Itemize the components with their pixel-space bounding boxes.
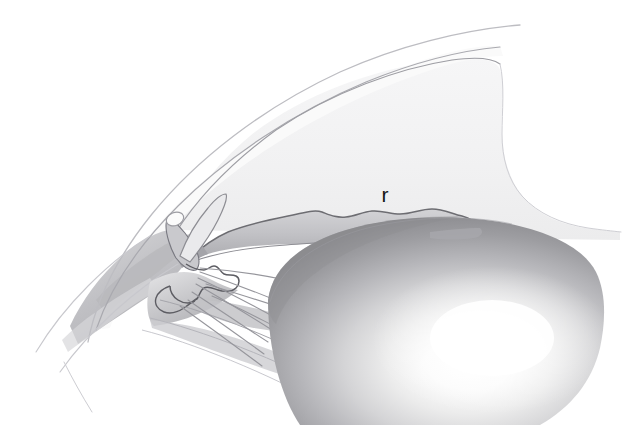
lens-highlight-core [430, 300, 554, 376]
eye-anatomy-illustration: r [0, 0, 629, 425]
lens [268, 216, 612, 425]
iris-label: r [382, 183, 389, 206]
eye-anatomy-figure: r [0, 0, 629, 425]
